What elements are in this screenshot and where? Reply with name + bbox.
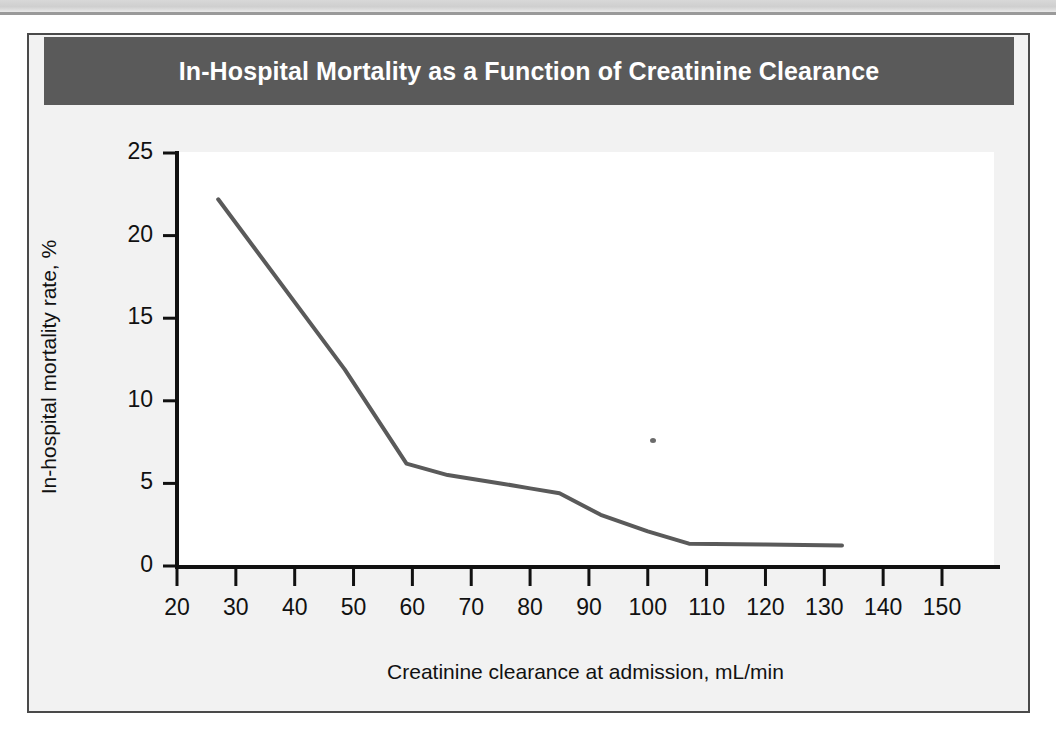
y-tick-label-25: 25 [57,138,153,165]
y-tick-label-15: 15 [57,303,153,330]
x-tick-label-150: 150 [902,594,982,621]
mortality-rate-line [218,199,842,545]
y-tick-label-5: 5 [57,468,153,495]
y-tick-marks [163,153,177,566]
x-axis-title: Creatinine clearance at admission, mL/mi… [177,660,994,684]
x-tick-marks [177,568,942,586]
y-tick-label-20: 20 [57,221,153,248]
y-tick-label-10: 10 [57,386,153,413]
axis-group [175,151,1000,567]
y-tick-label-0: 0 [57,551,153,578]
y-axis-title: In-hospital mortality rate, % [37,217,61,517]
chart-svg [0,0,1056,753]
